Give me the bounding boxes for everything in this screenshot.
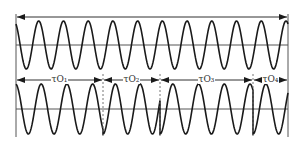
waveform-diagram: τO₁τO₂τO₃τO₄ (0, 0, 302, 144)
waveform-figure (0, 0, 302, 144)
segment-label-1: τO₁ (51, 74, 69, 84)
segment-label-2: τO₂ (123, 74, 141, 84)
segment-label-4: τO₄ (262, 74, 280, 84)
segment-label-3: τO₃ (198, 74, 216, 84)
